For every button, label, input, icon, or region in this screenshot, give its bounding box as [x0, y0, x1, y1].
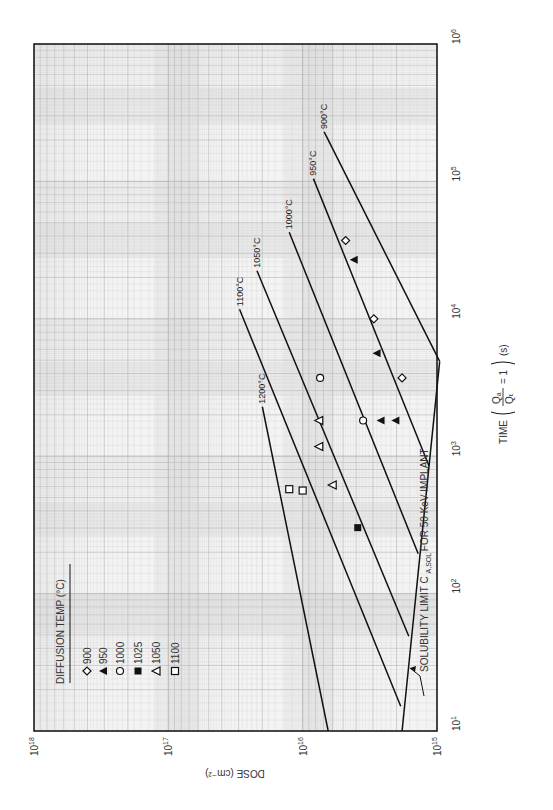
data-point-circle-icon [360, 417, 367, 424]
paper-band [154, 44, 199, 731]
legend-label: 1100 [170, 642, 181, 664]
legend-label: 950 [98, 647, 109, 664]
curve-label: 1100°C [235, 276, 245, 306]
fraction-numerator: Qₐ [491, 392, 502, 404]
data-point-square-filled-icon [354, 524, 361, 531]
curve-label: 1000°C [284, 199, 294, 230]
legend-label: 1025 [133, 641, 144, 664]
time-tick-label: 106 [450, 29, 462, 44]
time-label: TIME [498, 420, 509, 444]
equals-one: = 1 [498, 369, 509, 384]
dose-axis-title: DOSE (cm⁻²) [205, 768, 265, 779]
time-tick-label: 105 [450, 166, 462, 181]
chart: 1200°C1100°C1050°C1000°C950°C900°C SOLUB… [0, 0, 553, 810]
curve-label: 950°C [308, 150, 318, 176]
units: (s) [498, 344, 509, 356]
curve-label: 900°C [319, 103, 329, 129]
legend-title: DIFFUSION TEMP (°C) [55, 579, 66, 684]
time-tick-label: 104 [450, 304, 462, 319]
legend-marker-square-open-icon [172, 668, 179, 675]
data-point-circle-icon [317, 374, 324, 381]
paren-right [491, 362, 515, 364]
dose-tick-label: 1015 [431, 737, 443, 756]
dose-tick-label: 1018 [28, 737, 40, 756]
paper-band [34, 88, 437, 124]
legend-marker-square-filled-icon [135, 668, 142, 675]
time-tick-label: 101 [450, 716, 462, 731]
data-point-square-open-icon [286, 486, 293, 493]
time-tick-label: 102 [450, 578, 462, 593]
dose-tick-label: 1017 [162, 737, 174, 756]
fraction-denominator: Qₜ [504, 393, 515, 404]
time-axis-title: TIMEQₐQₜ= 1(s) [491, 344, 515, 444]
paren-left [491, 412, 515, 414]
dose-tick-label: 1016 [297, 737, 309, 756]
paper-band [34, 502, 437, 536]
paper-band [34, 222, 437, 258]
curve-label: 1050°C [252, 237, 262, 268]
data-point-square-open-icon [299, 487, 306, 494]
time-tick-label: 103 [450, 441, 462, 456]
legend-label: 900 [82, 647, 93, 664]
legend-label: 1000 [115, 641, 126, 664]
legend-marker-circle-icon [117, 668, 124, 675]
curve-label: 1200°C [257, 373, 267, 404]
shaded-bands [34, 44, 437, 731]
legend-label: 1050 [151, 641, 162, 664]
